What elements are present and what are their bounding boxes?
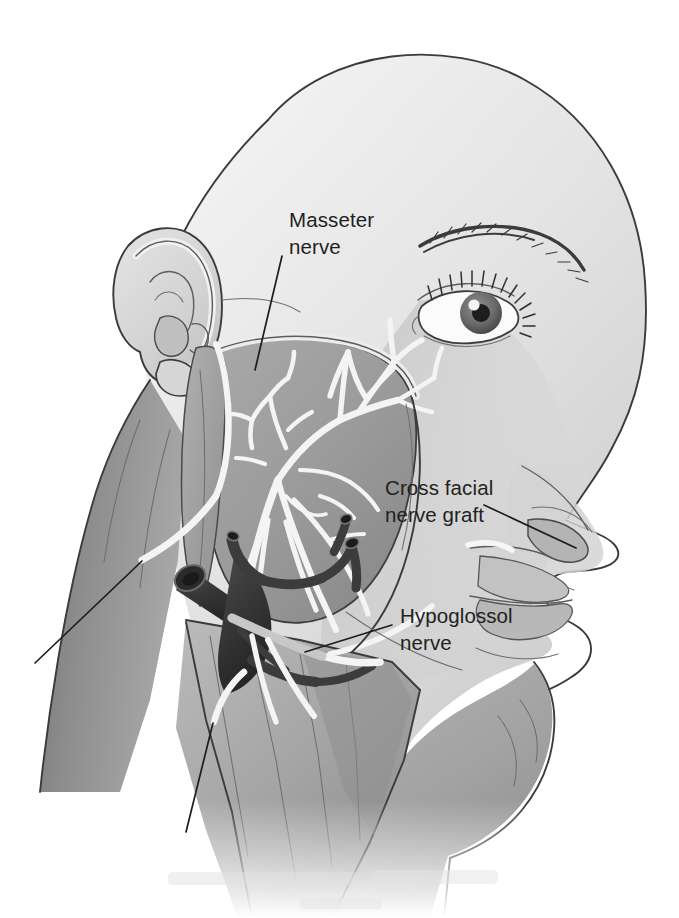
medical-illustration-figure: Masseter nerve Cross facial nerve graft … [0,0,679,918]
corneal-highlight [468,299,479,310]
label-masseter-nerve-line2: nerve [289,235,341,258]
concha [155,316,189,356]
label-cross-facial-nerve-graft-line1: Cross facial [385,476,493,499]
label-masseter-nerve-line1: Masseter [289,208,374,231]
posterior-neck-fill [40,380,186,792]
label-cross-facial-nerve-graft-line2: nerve graft [385,503,484,526]
posterior-neck [40,380,186,792]
label-hypoglossol-nerve-line2: nerve [400,631,452,654]
anatomy-illustration-canvas: Masseter nerve Cross facial nerve graft … [0,0,679,918]
vein-branch-down [352,546,357,588]
label-hypoglossol-nerve-line1: Hypoglossol [400,604,513,627]
